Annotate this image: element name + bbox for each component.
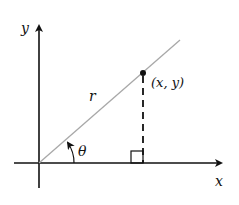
point-dot: [140, 70, 146, 76]
radius-ray: [39, 40, 180, 163]
right-angle-marker: [131, 151, 143, 163]
y-axis-label: y: [20, 20, 30, 36]
point-label: (x, y): [151, 75, 184, 90]
polar-diagram: y x r θ (x, y): [0, 0, 239, 205]
angle-arc: [68, 143, 74, 163]
x-axis-label: x: [215, 173, 223, 189]
angle-label: θ: [78, 143, 87, 159]
radius-label: r: [89, 88, 97, 104]
